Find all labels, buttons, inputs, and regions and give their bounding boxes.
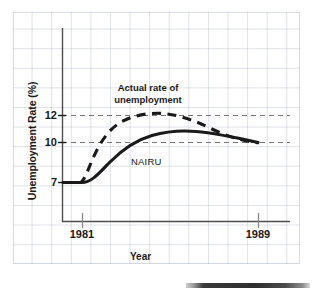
annotation-actual-line2: unemployment [102,94,194,106]
y-tick-label-12: 12 [37,109,57,121]
chart-figure: Unemployment Rate (%) 12 10 7 1981 1989 … [0,0,313,294]
x-tick-label-1989: 1989 [235,228,281,240]
annotation-nairu: NAIRU [131,156,162,167]
y-tick-label-7: 7 [37,176,57,188]
series-actual-rate-line [63,113,259,182]
annotation-actual-rate: Actual rate of unemployment [102,82,194,105]
annotation-actual-line1: Actual rate of [102,82,194,94]
x-tick-label-1981: 1981 [59,228,105,240]
x-axis-title: Year [130,251,151,262]
y-tick-label-10: 10 [37,136,57,148]
scan-artifact-bar [186,283,310,288]
